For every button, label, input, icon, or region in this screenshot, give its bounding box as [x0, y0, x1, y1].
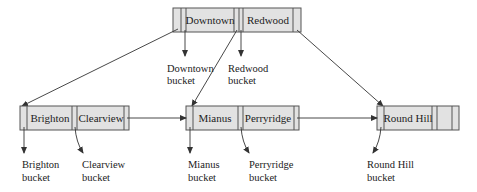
leaf-node-round-hill: Round Hill [377, 106, 459, 130]
leaf-key-clearview: Clearview [78, 112, 123, 124]
leaf-key-round-hill: Round Hill [383, 112, 432, 124]
bucket-label-clearview-1: Clearview [82, 159, 126, 170]
leaf-node-brighton-clearview: Brighton Clearview [20, 106, 129, 130]
bucket-label-perryridge-1: Perryridge [249, 159, 294, 170]
leaf-bucket-pointers [24, 127, 381, 153]
bucket-label-downtown-1: Downtown [167, 63, 214, 74]
leaf-bucket-labels: Brighton bucket Clearview bucket Mianus … [22, 159, 414, 183]
root-key-redwood: Redwood [247, 14, 290, 26]
bucket-label-brighton-1: Brighton [22, 159, 60, 170]
leaf-node-mianus-perryridge: Mianus Perryridge [186, 106, 299, 130]
bucket-label-clearview-2: bucket [82, 172, 110, 183]
b-plus-tree-diagram: Downtown Redwood Downtown bucket Redwood… [0, 0, 477, 192]
root-bucket-labels: Downtown bucket Redwood bucket [167, 63, 269, 86]
root-key-downtown: Downtown [186, 14, 235, 26]
root-node: Downtown Redwood [173, 8, 301, 32]
bucket-label-mianus-1: Mianus [188, 159, 220, 170]
leaf-key-brighton: Brighton [30, 112, 70, 124]
bucket-label-redwood-1: Redwood [228, 63, 269, 74]
bucket-label-mianus-2: bucket [188, 172, 216, 183]
leaf-key-perryridge: Perryridge [245, 112, 292, 124]
bucket-label-perryridge-2: bucket [249, 172, 277, 183]
bucket-label-brighton-2: bucket [22, 172, 50, 183]
bucket-label-round-hill-2: bucket [367, 172, 395, 183]
bucket-label-redwood-2: bucket [228, 75, 256, 86]
leaf-key-mianus: Mianus [199, 112, 232, 124]
bucket-label-round-hill-1: Round Hill [367, 159, 414, 170]
bucket-label-downtown-2: bucket [167, 75, 195, 86]
